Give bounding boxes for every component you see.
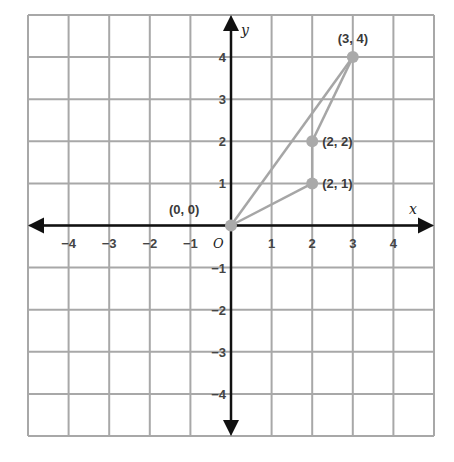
x-tick-label: −1: [183, 236, 198, 251]
y-tick-label: −2: [211, 303, 226, 318]
point-label: (0, 0): [169, 202, 199, 217]
x-axis-label: x: [409, 201, 417, 217]
x-tick-label: −2: [142, 236, 157, 251]
coordinate-plane: (0, 0)(2, 1)(2, 2)(3, 4) −4−3−2−11234432…: [0, 0, 454, 462]
x-tick-label: 2: [309, 236, 316, 251]
data-point: [306, 135, 318, 147]
y-tick-label: 2: [219, 134, 226, 149]
x-tick-label: 1: [268, 236, 275, 251]
y-tick-label: −1: [211, 261, 226, 276]
x-tick-label: 3: [349, 236, 356, 251]
arrow-left-icon: [28, 218, 44, 234]
data-point: [347, 51, 359, 63]
x-tick-label: 4: [390, 236, 398, 251]
y-axis-label: y: [240, 22, 250, 38]
data-point: [225, 220, 237, 232]
origin-label: O: [213, 236, 224, 251]
point-label: (2, 2): [322, 134, 352, 149]
arrow-down-icon: [223, 420, 239, 436]
data-points: (0, 0)(2, 1)(2, 2)(3, 4): [169, 31, 368, 231]
data-point: [306, 177, 318, 189]
y-tick-label: −4: [211, 387, 227, 402]
y-tick-label: 3: [219, 92, 226, 107]
arrow-up-icon: [223, 15, 239, 31]
y-tick-label: 4: [219, 50, 227, 65]
arrow-right-icon: [418, 218, 434, 234]
y-tick-label: −3: [211, 345, 226, 360]
point-label: (3, 4): [338, 31, 368, 46]
y-tick-label: 1: [219, 176, 226, 191]
x-tick-label: −4: [61, 236, 77, 251]
x-tick-label: −3: [102, 236, 117, 251]
point-label: (2, 1): [322, 176, 352, 191]
